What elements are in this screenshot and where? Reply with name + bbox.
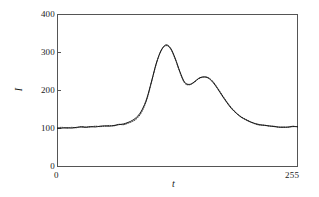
y-tick-label-300: 300 [41,47,55,57]
x-tick-label-255: 255 [285,170,299,180]
x-tick-label-0: 0 [54,170,59,180]
data-series-group [58,45,298,129]
plot-frame-rect [58,15,298,167]
y-tick-label-200: 200 [41,85,55,95]
line-plot-canvas [0,0,319,197]
y-axis-title: I [13,88,24,91]
y-tick-label-400: 400 [41,9,55,19]
series-dotted-curve [58,46,298,129]
chart-figure: 400 300 200 100 0 0 255 t I [0,0,319,197]
x-axis-title: t [172,178,175,189]
plot-frame [58,15,298,167]
y-tick-marks [58,53,62,129]
y-tick-label-100: 100 [41,123,55,133]
x-tick-marks [58,163,298,167]
series-solid-curve [58,45,298,129]
